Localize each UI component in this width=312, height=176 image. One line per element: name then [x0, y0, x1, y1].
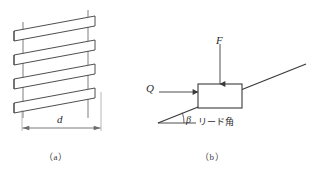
thread-turn-2: [14, 40, 95, 65]
panel-b-caption: （b）: [200, 150, 224, 163]
lead-angle-symbol-label: β: [186, 114, 191, 125]
force-label-F: F: [216, 34, 223, 46]
diameter-label: d: [57, 113, 63, 125]
thread-turn-1: [14, 16, 95, 41]
thread-turn-4: [14, 88, 95, 113]
block-body: [198, 84, 242, 108]
force-label-Q: Q: [146, 82, 154, 94]
thread-turn-3: [14, 64, 95, 89]
panel-a-caption: （a）: [44, 150, 68, 163]
angle-arc-beta: [182, 113, 184, 123]
panel-b-inclined-plane: [158, 44, 306, 123]
block: [198, 84, 242, 108]
lead-angle-text-label: リード角: [198, 115, 234, 128]
